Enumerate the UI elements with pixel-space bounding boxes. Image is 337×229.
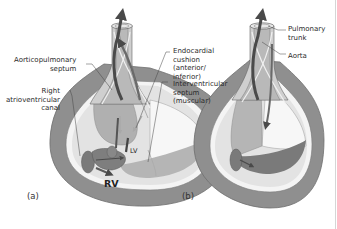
label-aorta: Aorta xyxy=(288,52,307,61)
label-pulmonary-trunk: Pulmonary trunk xyxy=(288,25,325,42)
label-right-atrioventricular-canal: Right atrioventricular canal xyxy=(6,87,60,113)
label-aorticopulmonary-septum: Aorticopulmonary septum xyxy=(14,56,76,73)
right-edge-divider xyxy=(335,0,336,229)
label-interventricular-septum: Interventricular septum (muscular) xyxy=(173,80,227,106)
panel-b-heart xyxy=(194,14,324,208)
label-endocardial-cushion: Endocardial cushion (anterior/ inferior) xyxy=(173,47,214,81)
heart-development-figure: Aorticopulmonary septum Right atrioventr… xyxy=(0,0,337,229)
panel-label-a: (a) xyxy=(27,191,39,201)
heart-diagram-svg xyxy=(0,0,337,229)
label-lv: LV xyxy=(130,147,137,155)
panel-label-b: (b) xyxy=(182,191,194,201)
label-rv: RV xyxy=(104,178,119,189)
